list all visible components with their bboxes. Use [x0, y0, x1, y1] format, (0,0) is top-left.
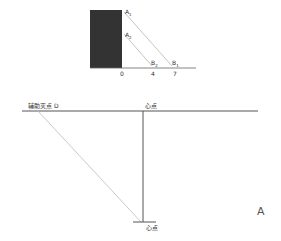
auxiliary-vanishing-point-label: 辅助灭点 D — [28, 102, 59, 110]
label-a2: A2 — [125, 31, 132, 40]
center-point-label: 心点 — [145, 102, 157, 110]
perspective-diagram: A1 A2 B2 B1 0 4 7 辅助灭点 D 心点 心点 A — [0, 0, 281, 241]
inset-figure: A1 A2 B2 B1 0 4 7 — [90, 8, 196, 77]
label-b2: B2 — [151, 59, 158, 68]
corner-label-a: A — [257, 205, 265, 218]
tick-7: 7 — [173, 70, 177, 77]
label-a1: A1 — [125, 8, 132, 17]
main-figure: 辅助灭点 D 心点 心点 A — [22, 102, 265, 232]
diagonal-to-vanishing-point — [38, 111, 141, 222]
tick-0: 0 — [120, 70, 124, 77]
dark-block — [90, 10, 122, 68]
tick-4: 4 — [151, 70, 155, 77]
label-b1: B1 — [172, 59, 179, 68]
bottom-center-point-label: 心点 — [146, 224, 158, 232]
